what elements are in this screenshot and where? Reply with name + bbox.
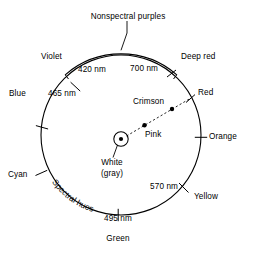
- spectral-hues-curved-label: Spectral hues: [50, 177, 95, 214]
- label-blue: Blue: [9, 89, 26, 99]
- label-green-wavelength: 495 nm: [95, 214, 141, 224]
- nonspectral-purples-leader: [121, 21, 127, 50]
- label-violet-wavelength: 420 nm: [78, 65, 106, 75]
- white-point-leader: [113, 145, 118, 158]
- spectral-hues-textpath: Spectral hues: [50, 177, 95, 214]
- label-crimson: Crimson: [133, 97, 164, 107]
- white-point-dot: [119, 137, 123, 141]
- point-crimson: [170, 107, 174, 111]
- label-cyan: Cyan: [8, 170, 28, 180]
- label-red: Red: [198, 88, 213, 98]
- label-violet: Violet: [41, 52, 62, 62]
- label-yellow: Yellow: [194, 192, 218, 202]
- label-white-gray: (gray): [82, 169, 142, 179]
- label-deep-red: Deep red: [181, 52, 215, 62]
- label-pink: Pink: [145, 130, 161, 140]
- label-deep-red-wavelength: 700 nm: [110, 64, 158, 74]
- label-green: Green: [95, 234, 141, 244]
- label-orange: Orange: [209, 132, 237, 142]
- tick-cyan: [36, 170, 48, 175]
- hue-circle-diagram: Spectral hues Nonspectral purples Violet…: [0, 0, 265, 255]
- label-white: White: [82, 158, 142, 168]
- label-yellow-wavelength: 570 nm: [130, 182, 178, 192]
- label-blue-wavelength: 465 nm: [48, 89, 76, 99]
- point-pink: [142, 123, 146, 127]
- nonspectral-purples-label: Nonspectral purples: [63, 12, 193, 22]
